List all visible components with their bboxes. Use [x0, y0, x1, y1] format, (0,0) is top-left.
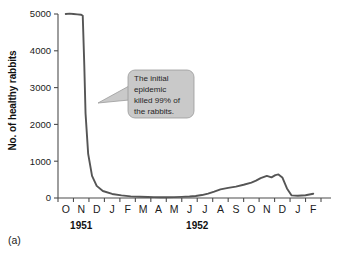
- x-tick-label: M: [170, 203, 179, 215]
- x-tick-label: N: [77, 203, 85, 215]
- x-axis-year-label: 1951: [70, 220, 93, 231]
- x-tick-label: O: [62, 203, 70, 215]
- x-tick-label: M: [139, 203, 148, 215]
- x-tick-label: S: [232, 203, 239, 215]
- x-axis-tick-labels: ONDJFMAMJJASONDJF: [62, 203, 317, 215]
- y-tick-label: 0: [46, 192, 51, 203]
- rabbit-population-chart: 010002000300040005000 The initial epidem…: [0, 0, 339, 253]
- figure-panel: No. of healthy rabbits 01000200030004000…: [0, 0, 339, 253]
- y-tick-label: 3000: [30, 82, 51, 93]
- x-tick-label: D: [279, 203, 287, 215]
- x-tick-label: A: [217, 203, 224, 215]
- callout-line-4: the rabbits.: [134, 107, 174, 116]
- x-tick-label: J: [295, 203, 300, 215]
- x-tick-label: J: [187, 203, 192, 215]
- y-tick-label: 2000: [30, 119, 51, 130]
- callout-pointer: [98, 86, 129, 103]
- x-tick-label: A: [155, 203, 162, 215]
- x-tick-label: D: [93, 203, 101, 215]
- y-tick-label: 4000: [30, 45, 51, 56]
- x-tick-label: J: [110, 203, 115, 215]
- callout-line-1: The initial: [134, 74, 169, 83]
- x-tick-label: O: [247, 203, 255, 215]
- x-tick-label: J: [202, 203, 207, 215]
- x-tick-label: F: [310, 203, 316, 215]
- y-axis-ticks: 010002000300040005000: [30, 8, 58, 203]
- callout-line-3: killed 99% of: [134, 96, 181, 105]
- callout-line-2: epidemic: [134, 85, 166, 94]
- x-axis-group-labels: 19511952: [70, 220, 209, 231]
- x-axis-ticks: [58, 198, 321, 202]
- x-tick-label: F: [124, 203, 130, 215]
- annotation-callout: The initial epidemic killed 99% of the r…: [98, 70, 194, 118]
- y-tick-label: 5000: [30, 8, 51, 19]
- y-tick-label: 1000: [30, 156, 51, 167]
- x-axis-year-label: 1952: [186, 220, 209, 231]
- x-tick-label: N: [263, 203, 271, 215]
- panel-label: (a): [8, 234, 21, 246]
